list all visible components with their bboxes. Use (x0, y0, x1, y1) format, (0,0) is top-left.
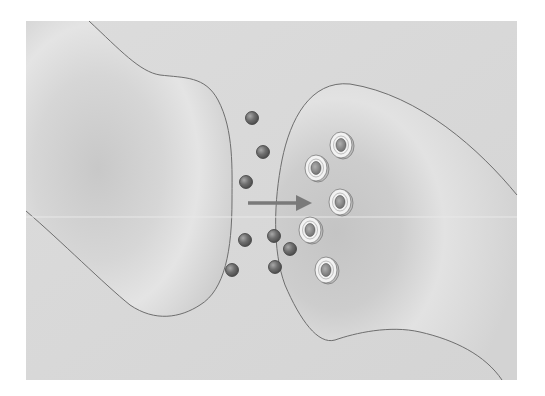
synapse-diagram (0, 0, 545, 396)
receptor (299, 217, 323, 244)
receptor (330, 132, 354, 159)
neurotransmitter-molecule (268, 230, 281, 243)
receptor (329, 189, 353, 216)
neurotransmitter-molecule (284, 243, 297, 256)
neurotransmitter-molecule (240, 176, 253, 189)
receptor (305, 155, 329, 182)
neurotransmitter-molecule (269, 261, 282, 274)
receptor (315, 257, 339, 284)
neurotransmitter-molecule (239, 234, 252, 247)
neurotransmitter-molecule (226, 264, 239, 277)
neurotransmitter-molecule (246, 112, 259, 125)
neurotransmitter-molecule (257, 146, 270, 159)
synapse-svg (0, 0, 545, 396)
